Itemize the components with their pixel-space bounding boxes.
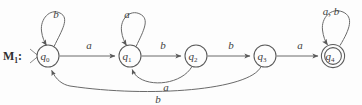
transition-label-q3-q0: b xyxy=(155,93,161,105)
state-node-q3[interactable]: q3 xyxy=(254,45,276,67)
transition-label-q4-q4: a, b xyxy=(323,5,340,17)
machine-name-text: M xyxy=(3,49,14,63)
transition-label-q1-q1: a xyxy=(124,8,130,20)
transition-label-q2-q1: a xyxy=(163,81,169,93)
machine-name-colon: : xyxy=(18,49,22,63)
transition-label-q0-q0: b xyxy=(53,8,59,20)
transition-q3-q0-path xyxy=(52,67,261,92)
transition-label-q2-q3: b xyxy=(228,39,234,51)
machine-name-label: M1: xyxy=(3,49,22,65)
transition-label-q1-q2: b xyxy=(160,39,166,51)
transition-q2-q1-path xyxy=(132,67,192,83)
state-node-q1[interactable]: q1 xyxy=(119,45,141,67)
transition-label-q0-q1: a xyxy=(86,39,92,51)
state-node-q0[interactable]: q0 xyxy=(37,45,59,67)
state-node-q2[interactable]: q2 xyxy=(185,45,207,67)
transition-label-q3-q4: a xyxy=(297,39,303,51)
automaton-figure: M1: q0 q1 xyxy=(0,0,362,105)
state-node-q4[interactable]: q4 xyxy=(321,44,344,67)
